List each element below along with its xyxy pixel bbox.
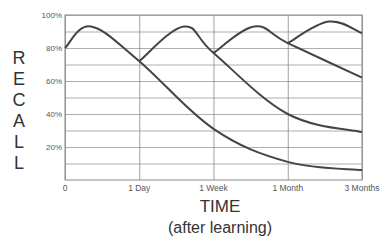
y-tick-label: 40%: [46, 110, 62, 119]
y-title-letter: C: [10, 90, 28, 111]
y-tick-label: 80%: [46, 44, 62, 53]
y-title-letter: L: [10, 132, 28, 153]
x-tick-label: 0: [63, 183, 68, 193]
grid: [65, 15, 363, 180]
x-tick-label: 1 Day: [128, 183, 151, 193]
x-tick-label: 3 Months: [345, 183, 380, 193]
y-tick-label: 100%: [42, 11, 62, 20]
recall-curve: [214, 26, 363, 77]
x-axis-subtitle: (after learning): [0, 219, 392, 237]
x-tick-label: 1 Month: [272, 183, 303, 193]
y-tick-label: 60%: [46, 77, 62, 86]
y-tick-label: 20%: [46, 143, 62, 152]
x-axis-title: TIME: [0, 197, 392, 217]
recall-curve: [139, 26, 362, 132]
y-title-letter: E: [10, 69, 28, 90]
y-title-letter: A: [10, 111, 28, 132]
x-tick-label: 1 Week: [199, 183, 228, 193]
y-title-letter: R: [10, 48, 28, 69]
plot-frame: [65, 15, 362, 180]
tick-labels: 100%80%60%40%20%01 Day1 Week1 Month3 Mon…: [42, 11, 380, 193]
y-title-letter: L: [10, 153, 28, 174]
